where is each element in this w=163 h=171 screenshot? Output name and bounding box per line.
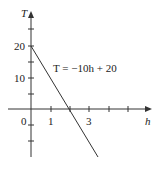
x-tick-label-3: 3 bbox=[86, 115, 92, 127]
origin-label: 0 bbox=[21, 115, 27, 127]
x-tick-label-1: 1 bbox=[48, 115, 54, 127]
equation-annotation: T = −10h + 20 bbox=[53, 62, 117, 74]
y-tick-label-10: 10 bbox=[14, 72, 26, 84]
chart: T h 0 1 3 20 10 T = −10h + 20 bbox=[0, 0, 163, 171]
y-tick-label-20: 20 bbox=[14, 40, 26, 52]
y-axis-arrow-icon bbox=[28, 11, 34, 18]
x-axis-label: h bbox=[145, 115, 151, 127]
y-axis-label: T bbox=[21, 7, 28, 19]
x-axis-arrow-icon bbox=[145, 106, 152, 112]
